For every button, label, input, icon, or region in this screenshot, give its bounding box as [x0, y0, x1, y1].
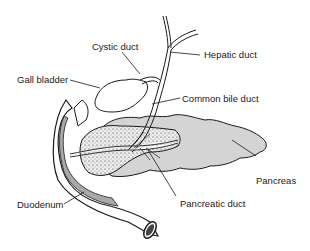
label-gall-bladder: Gall bladder	[17, 75, 68, 85]
label-cystic-duct: Cystic duct	[92, 42, 138, 52]
label-common-bile-duct: Common bile duct	[182, 94, 259, 104]
anatomy-diagram	[0, 0, 310, 251]
label-pancreas: Pancreas	[256, 176, 296, 186]
label-hepatic-duct: Hepatic duct	[204, 50, 257, 60]
gall-bladder	[95, 79, 148, 112]
label-pancreatic-duct: Pancreatic duct	[180, 199, 245, 209]
hepatic-duct	[163, 16, 198, 50]
label-duodenum: Duodenum	[17, 200, 63, 210]
